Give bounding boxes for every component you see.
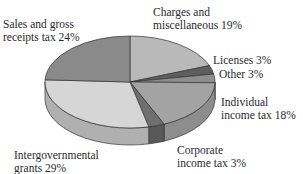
label-licenses: Licenses 3% <box>213 54 271 67</box>
label-corporate: Corporateincome tax 3% <box>177 144 246 170</box>
label-individual: Individualincome tax 18% <box>221 96 296 122</box>
label-sales: Sales and grossreceipts tax 24% <box>3 18 80 44</box>
label-other: Other 3% <box>219 68 263 81</box>
pie-side-4 <box>149 124 164 144</box>
label-intergovernmental: Intergovernmentalgrants 29% <box>14 149 99 174</box>
label-charges: Charges andmiscellaneous 19% <box>153 6 242 32</box>
pie-slices <box>45 36 215 128</box>
